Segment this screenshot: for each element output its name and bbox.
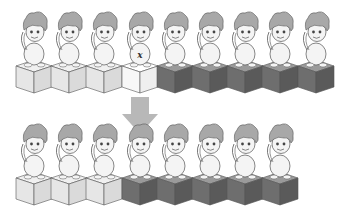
child-on-light-cube (86, 112, 122, 212)
child-on-light-cube (16, 112, 52, 212)
svg-text:x: x (136, 50, 143, 60)
child-on-dark-cube (227, 0, 263, 100)
child-on-light-cube (16, 0, 52, 100)
child-on-dark-cube (122, 112, 158, 212)
child-on-dark-cube (157, 0, 193, 100)
child-on-dark-cube (192, 112, 228, 212)
child-on-light-cube (51, 112, 87, 212)
child-on-dark-cube (227, 112, 263, 212)
caption (100, 213, 300, 222)
child-on-white-cube-marked: x (122, 0, 158, 100)
child-on-dark-cube (192, 0, 228, 100)
child-on-dark-cube (262, 112, 298, 212)
child-on-light-cube (86, 0, 122, 100)
child-on-light-cube (51, 0, 87, 100)
child-on-dark-cube (262, 0, 298, 100)
child-on-dark-cube (157, 112, 193, 212)
child-on-dark-cube (298, 0, 334, 100)
